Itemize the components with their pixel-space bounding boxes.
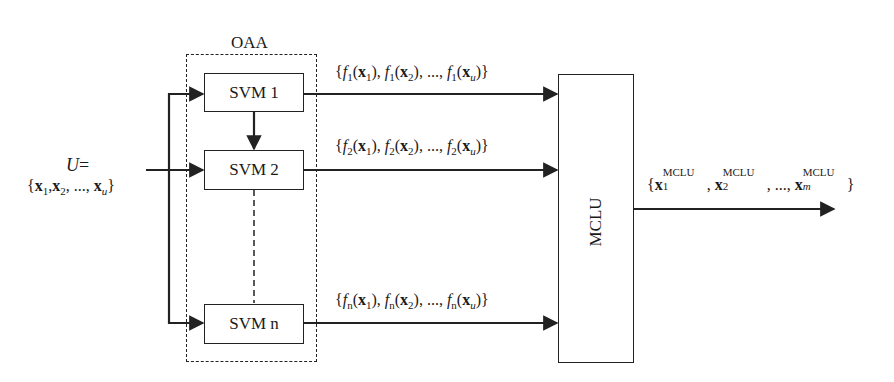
- svm-n-label: SVM n: [205, 314, 303, 334]
- svm-2-label: SVM 2: [205, 160, 303, 180]
- oaa-label: OAA: [231, 34, 268, 51]
- input-set-members: {x1,x2, ..., xu}: [27, 178, 115, 194]
- mclu-result-label: {xMCLU1, xMCLU2, ..., xMCLUm}: [647, 174, 854, 193]
- svm-1-output-label: {f1(x1), f1(x2), ..., f1(xu)}: [335, 64, 489, 80]
- input-set-name: U=: [66, 156, 89, 174]
- svm-n-box: SVM n: [204, 304, 304, 344]
- mclu-label: MCLU: [586, 197, 606, 246]
- svm-1-box: SVM 1: [204, 73, 304, 112]
- svm-n-output-label: {fn(x1), fn(x2), ..., fn(xu)}: [335, 292, 489, 308]
- svm-1-label: SVM 1: [205, 83, 303, 103]
- svm-2-box: SVM 2: [204, 150, 304, 190]
- svm-2-output-label: {f2(x1), f2(x2), ..., f2(xu)}: [335, 138, 489, 154]
